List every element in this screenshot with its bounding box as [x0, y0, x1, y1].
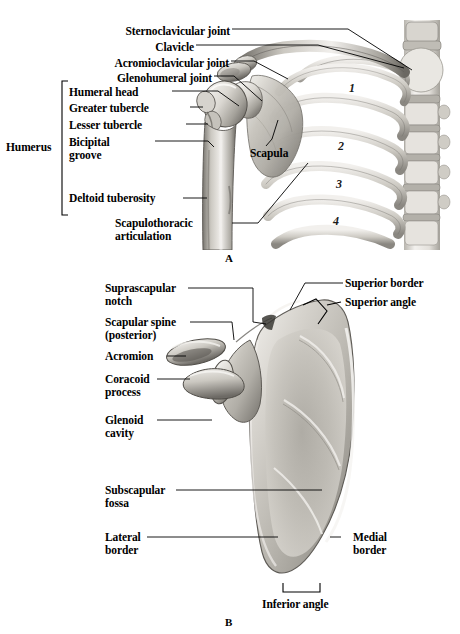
- label-bicipital-groove-line2: groove: [69, 149, 101, 162]
- label-scapular-spine-line1: Scapular spine: [105, 316, 176, 329]
- label-lesser-tubercle: Lesser tubercle: [69, 119, 142, 132]
- rib-number-4: 4: [333, 214, 339, 229]
- label-scapular-spine-line2: (posterior): [105, 329, 156, 342]
- label-scapulothoracic-line2: articulation: [115, 230, 171, 243]
- label-subscapular-fossa-line1: Subscapular: [105, 484, 165, 497]
- label-suprascapular-notch-line1: Suprascapular: [105, 282, 176, 295]
- label-sternoclavicular-joint: Sternoclavicular joint: [60, 25, 230, 38]
- label-lateral-border-line1: Lateral: [105, 531, 141, 544]
- label-coracoid-process-line2: process: [105, 386, 141, 399]
- label-medial-border-line1: Medial: [353, 531, 387, 544]
- panel-letter-a: A: [225, 252, 233, 264]
- label-scapulothoracic-line1: Scapulothoracic: [115, 217, 193, 230]
- label-glenoid-cavity-line2: cavity: [105, 427, 134, 440]
- label-superior-border: Superior border: [345, 277, 423, 290]
- label-inferior-angle: Inferior angle: [262, 598, 328, 611]
- label-subscapular-fossa-line2: fossa: [105, 497, 129, 510]
- label-coracoid-process-line1: Coracoid: [105, 373, 150, 386]
- panel-b-artwork: [164, 300, 354, 573]
- label-humeral-head: Humeral head: [69, 86, 138, 99]
- label-acromion: Acromion: [105, 350, 153, 363]
- panel-a-artwork: [194, 20, 450, 250]
- label-medial-border-line2: border: [353, 544, 386, 557]
- label-greater-tubercle: Greater tubercle: [69, 102, 149, 115]
- coracoid-process-b: [183, 369, 244, 399]
- subscapular-fossa-shading: [265, 329, 346, 557]
- label-scapula: Scapula: [250, 147, 288, 160]
- rib-number-1: 1: [349, 81, 355, 96]
- label-superior-angle: Superior angle: [345, 296, 416, 309]
- inferior-angle-bracket: [283, 583, 320, 592]
- humerus-bracket-line: [62, 81, 68, 215]
- label-deltoid-tuberosity: Deltoid tuberosity: [69, 192, 155, 205]
- label-suprascapular-notch-line2: notch: [105, 295, 132, 308]
- label-glenohumeral-joint: Glenohumeral joint: [58, 72, 212, 85]
- label-humerus: Humerus: [6, 141, 51, 154]
- label-clavicle: Clavicle: [60, 41, 194, 54]
- rib-number-3: 3: [336, 177, 342, 192]
- label-bicipital-groove-line1: Bicipital: [69, 136, 110, 149]
- rib-number-2: 2: [338, 139, 344, 154]
- anatomy-figure: Sternoclavicular joint Clavicle Acromioc…: [0, 0, 460, 634]
- label-glenoid-cavity-line1: Glenoid: [105, 414, 143, 427]
- panel-letter-b: B: [225, 616, 232, 628]
- label-acromioclavicular-joint: Acromioclavicular joint: [48, 57, 229, 70]
- label-lateral-border-line2: border: [105, 544, 138, 557]
